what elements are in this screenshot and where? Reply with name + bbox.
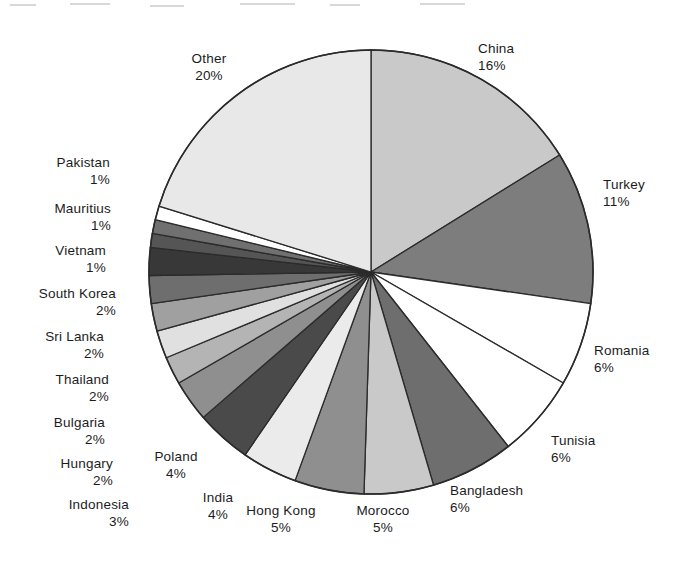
pie-label-poland: Poland4%	[86, 448, 266, 482]
pie-label-value: 6%	[594, 359, 649, 376]
pie-label-name: Sri Lanka	[0, 328, 104, 345]
pie-label-name: Turkey	[603, 176, 645, 193]
pie-label-name: Vietnam	[0, 242, 106, 259]
pie-label-name: Poland	[86, 448, 266, 465]
pie-label-value: 6%	[551, 449, 595, 466]
pie-label-value: 1%	[0, 217, 111, 234]
pie-label-name: Bangladesh	[450, 482, 523, 499]
pie-label-indonesia: Indonesia3%	[0, 496, 129, 530]
pie-label-value: 4%	[128, 506, 308, 523]
pie-label-value: 20%	[119, 67, 299, 84]
pie-label-romania: Romania6%	[594, 342, 649, 376]
pie-label-name: South Korea	[0, 285, 116, 302]
pie-label-value: 11%	[603, 193, 645, 210]
pie-label-thailand: Thailand2%	[0, 371, 109, 405]
pie-label-name: Bulgaria	[0, 414, 105, 431]
pie-label-value: 2%	[0, 345, 104, 362]
pie-label-sri-lanka: Sri Lanka2%	[0, 328, 104, 362]
pie-label-name: Romania	[594, 342, 649, 359]
pie-chart-figure: China16%Turkey11%Romania6%Tunisia6%Bangl…	[0, 0, 673, 571]
pie-label-value: 16%	[478, 57, 514, 74]
pie-label-hungary: Hungary2%	[0, 455, 113, 489]
pie-label-vietnam: Vietnam1%	[0, 242, 106, 276]
pie-label-value: 2%	[0, 302, 116, 319]
pie-label-name: Indonesia	[0, 496, 129, 513]
pie-label-name: Thailand	[0, 371, 109, 388]
pie-label-value: 1%	[0, 171, 110, 188]
pie-label-other: Other20%	[119, 50, 299, 84]
pie-label-name: Hungary	[0, 455, 113, 472]
pie-label-name: Tunisia	[551, 432, 595, 449]
pie-label-name: Pakistan	[0, 154, 110, 171]
pie-label-value: 1%	[0, 259, 106, 276]
pie-label-value: 2%	[0, 431, 105, 448]
pie-label-name: Other	[119, 50, 299, 67]
pie-label-tunisia: Tunisia6%	[551, 432, 595, 466]
pie-label-bulgaria: Bulgaria2%	[0, 414, 105, 448]
pie-slice-group	[149, 50, 593, 494]
pie-label-name: India	[128, 489, 308, 506]
pie-label-china: China16%	[478, 40, 514, 74]
pie-label-value: 2%	[0, 388, 109, 405]
pie-label-turkey: Turkey11%	[603, 176, 645, 210]
pie-label-name: China	[478, 40, 514, 57]
pie-label-name: Mauritius	[0, 200, 111, 217]
pie-label-pakistan: Pakistan1%	[0, 154, 110, 188]
pie-label-value: 4%	[86, 465, 266, 482]
pie-label-south-korea: South Korea2%	[0, 285, 116, 319]
pie-label-india: India4%	[128, 489, 308, 523]
pie-label-mauritius: Mauritius1%	[0, 200, 111, 234]
pie-label-value: 2%	[0, 472, 113, 489]
pie-label-value: 3%	[0, 513, 129, 530]
